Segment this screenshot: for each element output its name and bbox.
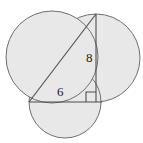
geometry-figure: 8 6 — [0, 0, 143, 143]
hypotenuse-circle — [6, 11, 98, 103]
horizontal-side-label: 6 — [57, 85, 64, 98]
figure-canvas — [0, 0, 143, 143]
vertical-side-label: 8 — [86, 51, 93, 64]
